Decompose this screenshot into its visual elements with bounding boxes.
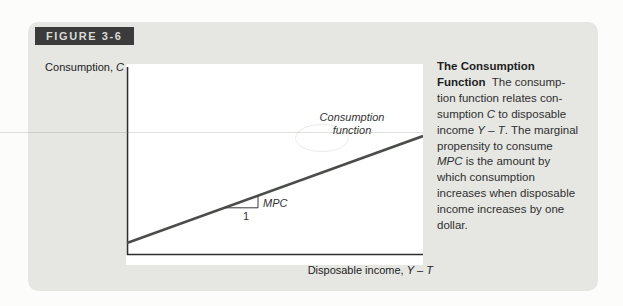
figure-number-label: FIGURE 3-6 [46,30,123,42]
textbook-figure-page: { "colors": { "page_bg": "#fcfcfa", "pan… [0,0,623,306]
curve-label: Consumption function [292,111,412,137]
y-axis-label: Consumption, C [20,61,124,73]
consumption-function-line [127,136,423,243]
curve-label-line1: Consumption [292,111,412,124]
figure-number-tab: FIGURE 3-6 [35,27,134,45]
mpc-slope-label: MPC [263,197,287,209]
x-axis-label: Disposable income, Y – T [250,264,433,276]
slope-run-label: 1 [236,210,256,222]
figure-caption: The ConsumptionFunction The consump-tion… [437,59,595,234]
plot-area [126,64,423,265]
curve-label-line2: function [292,124,412,137]
plot-canvas [126,64,423,265]
